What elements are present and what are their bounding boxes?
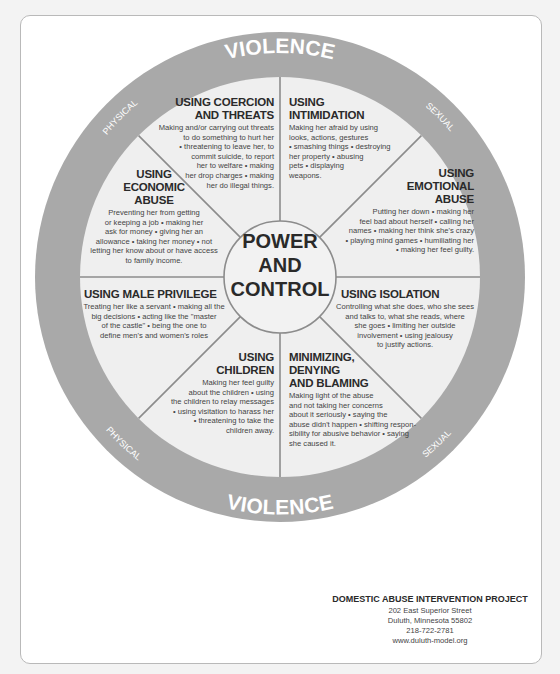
wedge-body-line: abuse didn't happen • shifting respon- [289,420,416,429]
wedge-children: USINGCHILDREN Making her feel guilty abo… [144,351,274,436]
wedge-emotional: USINGEMOTIONALABUSE Putting her down • m… [340,167,474,255]
wedge-body-line: she caused it. [289,439,336,448]
wedge-body-line: children away. [226,426,274,435]
wedge-body-line: • threatening to take the [194,416,274,425]
wedge-body-line: • smashing things • destroying [289,142,391,151]
wedge-body-line: pets • displaying [289,161,344,170]
wedge-body-line: Putting her down • making her [373,207,474,216]
org-name: DOMESTIC ABUSE INTERVENTION PROJECT [300,594,560,604]
wedge-body-line: Preventing her from getting [108,208,200,217]
center-line-control: CONTROL [224,277,336,301]
wedge-body-line: to family income. [126,256,183,265]
wedge-body-line: Making her afraid by using [289,123,378,132]
wedge-minimizing: MINIMIZING,DENYINGAND BLAMING Making lig… [289,351,425,449]
wedge-title-line: ABUSE [134,194,173,206]
wedge-body-line: allowance • taking her money • not [96,237,212,246]
wedge-title-line: USING COERCION [175,96,274,108]
center-label: POWER AND CONTROL [224,229,336,301]
wedge-body-line: the children to relay messages [171,397,274,406]
wedge-body-line: ask for money • giving her an [105,227,203,236]
wedge-body-line: and not taking her concerns [289,401,383,410]
wedge-body-line: about it seriously • saying the [289,410,387,419]
wedge-title-line: USING [439,167,474,179]
wedge-title-line: USING ISOLATION [341,288,439,300]
wedge-body-line: names • making her think she's crazy [349,226,474,235]
center-line-power: POWER [224,229,336,253]
wedge-body-line: and talks to, what she reads, where [345,312,464,321]
wedge-economic: USINGECONOMICABUSE Preventing her from g… [84,168,224,266]
wedge-title-line: INTIMIDATION [289,109,364,121]
wedge-body-line: she goes • limiting her outside [354,321,455,330]
wedge-body-line: feel bad about herself • calling her [359,217,474,226]
wedge-body-line: Making her feel guilty [202,378,274,387]
wedge-title-line: AND THREATS [195,109,274,121]
wedge-body-line: weapons. [289,171,322,180]
wedge-body-line: define men's and women's roles [100,331,208,340]
wedge-body-line: of the castle" • being the one to [102,321,207,330]
wedge-body-line: • using visitation to harass her [173,407,274,416]
wedge-male-privilege: USING MALE PRIVILEGE Treating her like a… [80,288,228,340]
wedge-body-line: commit suicide, to report [191,152,274,161]
org-contact-block: DOMESTIC ABUSE INTERVENTION PROJECT 202 … [300,594,560,646]
wedge-title-line: USING [136,168,171,180]
org-phone: 218-722-2781 [300,626,560,636]
wedge-body-line: sibility for abusive behavior • saying [289,429,409,438]
wedge-title-line: USING MALE PRIVILEGE [84,288,217,300]
wedge-body-line: • playing mind games • humiliating her [345,236,474,245]
wedge-title-line: EMOTIONAL [407,180,474,192]
wedge-body-line: to justify actions. [377,340,433,349]
wedge-isolation: USING ISOLATION Controlling what she doe… [335,288,475,350]
wedge-body-line: her property • abusing [289,152,363,161]
wedge-body-line: letting her know about or have access [90,246,217,255]
wedge-body-line: • making her feel guilty. [396,245,474,254]
wedge-body-line: Treating her like a servant • making all… [83,302,224,311]
wedge-body-line: to do something to hurt her [183,133,274,142]
wedge-body-line: Controlling what she does, who she sees [336,302,474,311]
org-city: Duluth, Minnesota 55802 [300,616,560,626]
wedge-body-line: • threatening to leave her, to [179,142,274,151]
org-website-link[interactable]: www.duluth-model.org [300,636,560,646]
wedge-body-line: big decisions • acting like the "master [91,312,216,321]
wedge-title-line: USING [239,351,274,363]
wedge-body-line: Making and/or carrying out threats [159,123,274,132]
wedge-title-line: USING [289,96,324,108]
wedge-title-line: DENYING [289,364,340,376]
wedge-title-line: AND BLAMING [289,377,369,389]
org-address: 202 East Superior Street [300,606,560,616]
wedge-title-line: MINIMIZING, [289,351,355,363]
center-line-and: AND [224,253,336,277]
wedge-body-line: about the children • using [189,388,274,397]
wedge-body-line: involvement • using jealousy [357,331,453,340]
wedge-body-line: Making light of the abuse [289,391,373,400]
wedge-title-line: ECONOMIC [123,181,185,193]
wedge-body-line: looks, actions, gestures [289,133,368,142]
wedge-title-line: CHILDREN [216,364,274,376]
wedge-title-line: ABUSE [435,193,474,205]
wedge-body-line: or keeping a job • making her [105,218,203,227]
